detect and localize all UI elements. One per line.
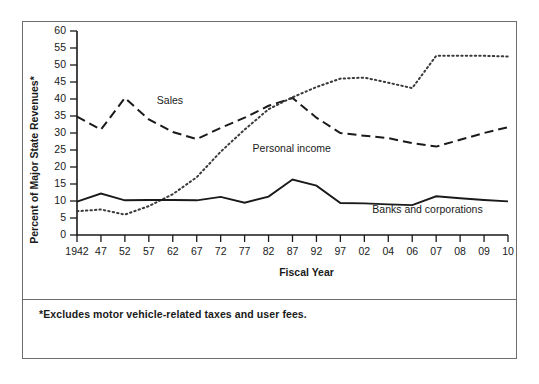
series-label-personal-income: Personal income (253, 142, 331, 154)
x-tick-label: 1942 (65, 245, 89, 257)
x-tick-label: 67 (191, 245, 203, 257)
x-tick-label: 92 (311, 245, 323, 257)
y-tick-label: 50 (54, 58, 66, 70)
series-label-sales: Sales (157, 94, 183, 106)
x-axis-title: Fiscal Year (279, 266, 334, 278)
y-tick-label: 45 (54, 75, 66, 87)
series-line-banks-and-corporations (77, 180, 508, 206)
y-tick-label: 15 (54, 177, 66, 189)
line-chart: 051015202530354045505560 194247525762677… (23, 22, 516, 297)
x-tick-label: 08 (454, 245, 466, 257)
series-label-banks-and-corporations: Banks and corporations (372, 203, 482, 215)
y-tick-label: 35 (54, 109, 66, 121)
x-tick-label: 07 (430, 245, 442, 257)
x-tick-label: 82 (263, 245, 275, 257)
x-axis-ticks: 1942475257626772778287929702040607080910 (65, 235, 514, 257)
x-tick-label: 97 (335, 245, 347, 257)
y-axis-ticks: 051015202530354045505560 (54, 24, 77, 240)
x-tick-label: 52 (119, 245, 131, 257)
y-tick-label: 60 (54, 24, 66, 36)
y-tick-label: 25 (54, 143, 66, 155)
y-tick-label: 40 (54, 92, 66, 104)
x-tick-label: 10 (502, 245, 514, 257)
x-tick-label: 02 (358, 245, 370, 257)
x-tick-label: 09 (478, 245, 490, 257)
y-tick-label: 30 (54, 126, 66, 138)
figure-container: Percent of Major State Revenues* 0510152… (22, 21, 517, 359)
series-line-sales (77, 98, 508, 147)
y-tick-label: 10 (54, 194, 66, 206)
series-line-personal-income (77, 56, 508, 215)
x-tick-label: 47 (95, 245, 107, 257)
y-tick-label: 20 (54, 160, 66, 172)
footnote-text: *Excludes motor vehicle-related taxes an… (39, 308, 307, 320)
x-tick-label: 77 (239, 245, 251, 257)
x-tick-label: 04 (382, 245, 394, 257)
x-tick-label: 87 (287, 245, 299, 257)
x-tick-label: 62 (167, 245, 179, 257)
y-tick-label: 0 (60, 228, 66, 240)
x-tick-label: 57 (143, 245, 155, 257)
y-tick-label: 55 (54, 41, 66, 53)
footnote-divider (23, 299, 516, 300)
x-tick-label: 72 (215, 245, 227, 257)
x-tick-label: 06 (406, 245, 418, 257)
chart-series-group (77, 56, 508, 215)
y-tick-label: 5 (60, 211, 66, 223)
